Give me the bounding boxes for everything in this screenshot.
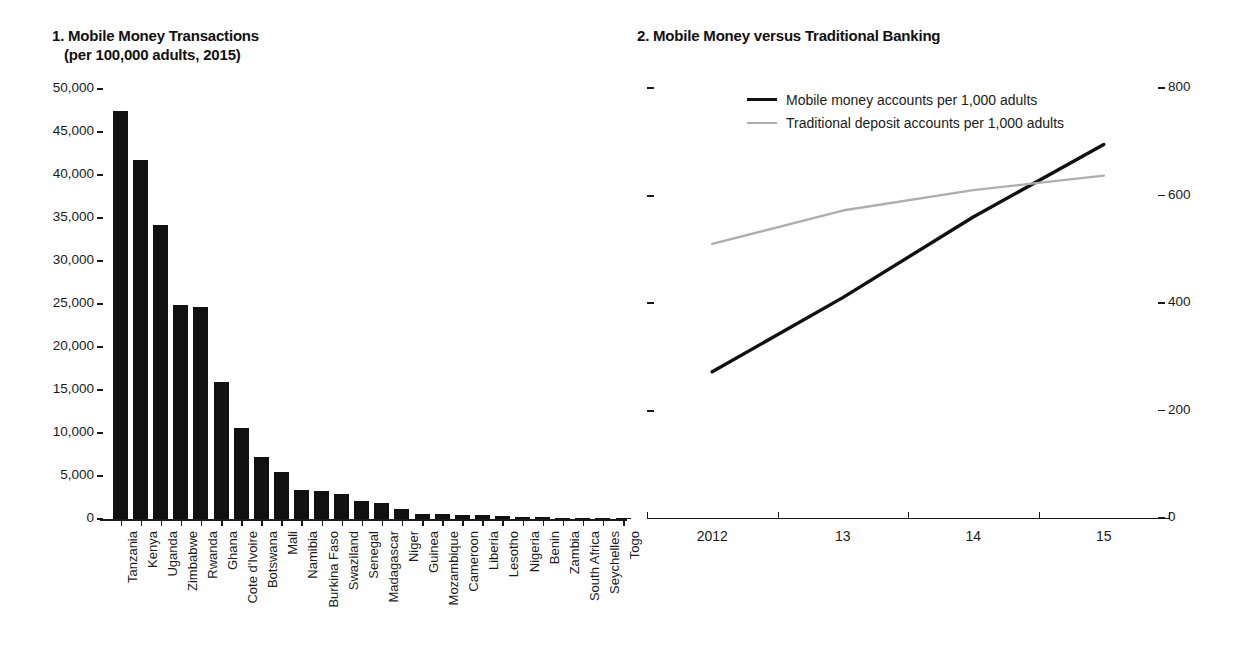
bar-chart-panel: 1. Mobile Money Transactions (per 100,00…: [0, 0, 640, 645]
line-chart-panel: 2. Mobile Money versus Traditional Banki…: [625, 0, 1250, 645]
bar-plot-area: [105, 89, 625, 519]
line-y-tick-label: 400: [1168, 294, 1191, 309]
line-x-tick-mark: [647, 512, 648, 519]
bar: [234, 428, 249, 519]
bar-category-label: Uganda: [166, 531, 179, 577]
bar-category-label: Guinea: [427, 531, 440, 573]
bar-category-label: South Africa: [588, 531, 601, 601]
bar: [214, 382, 229, 519]
bar-x-tick-mark: [543, 519, 545, 526]
bar: [193, 307, 208, 519]
bar: [294, 490, 309, 519]
bar-axis-baseline: [100, 519, 627, 521]
bar-category-label: Kenya: [146, 531, 159, 568]
bar-y-tick-mark: [97, 260, 103, 262]
bar-category-label: Seychelles: [608, 531, 621, 594]
bar-x-tick-mark: [502, 519, 504, 526]
bar-x-tick-mark: [563, 519, 565, 526]
line-x-tick-label: 13: [835, 528, 851, 544]
bar-category-label: Zambia: [568, 531, 581, 574]
bar-category-label: Burkina Faso: [327, 531, 340, 608]
bar-y-tick-label: 15,000: [53, 381, 94, 396]
bar-x-tick-mark: [301, 519, 303, 526]
line-y-tick-label: 600: [1168, 187, 1191, 202]
line-series-mobile-money: [712, 144, 1104, 371]
bar-y-tick-mark: [97, 174, 103, 176]
bar-category-label: Madagascar: [387, 531, 400, 603]
line-x-tick-mark: [1039, 512, 1040, 519]
bar-x-tick-mark: [161, 519, 163, 526]
bar: [113, 111, 128, 520]
bar-category-label: Rwanda: [206, 531, 219, 579]
bar: [173, 305, 188, 519]
bar-y-tick-mark: [97, 346, 103, 348]
bar-y-tick-label: 25,000: [53, 295, 94, 310]
bar-y-tick-mark: [97, 217, 103, 219]
line-x-tick-mark: [1169, 512, 1170, 519]
bar-category-label: Lesotho: [507, 531, 520, 577]
line-y-tick-mark-right: [1158, 410, 1165, 412]
bar-x-tick-mark: [121, 519, 123, 526]
bar-x-tick-mark: [603, 519, 605, 526]
bar-category-label: Botswana: [266, 531, 279, 588]
bar-y-tick-label: 45,000: [53, 123, 94, 138]
line-x-tick-label: 15: [1096, 528, 1112, 544]
line-x-tick-label: 2012: [697, 528, 728, 544]
bar-x-tick-mark: [141, 519, 143, 526]
bar-x-tick-mark: [261, 519, 263, 526]
bar: [314, 491, 329, 519]
bar-y-tick-mark: [97, 88, 103, 90]
line-plot-area: [625, 0, 1250, 645]
line-y-tick-mark-left: [647, 302, 654, 304]
bar-x-tick-mark: [382, 519, 384, 526]
bar-y-tick-label: 50,000: [53, 80, 94, 95]
bar-category-label: Cameroon: [467, 531, 480, 592]
bar-y-tick-label: 20,000: [53, 338, 94, 353]
bar-category-label: Liberia: [487, 531, 500, 570]
bar-category-label: Niger: [407, 531, 420, 562]
bar-x-tick-mark: [322, 519, 324, 526]
bar: [153, 225, 168, 519]
line-y-tick-mark-left: [647, 87, 654, 89]
bar: [334, 494, 349, 519]
bar-category-label: Swaziland: [347, 531, 360, 590]
line-x-tick-mark: [908, 512, 909, 519]
bar-category-label: Senegal: [367, 531, 380, 579]
bar: [133, 160, 148, 519]
bar-y-tick-label: 5,000: [60, 467, 94, 482]
bar-x-tick-mark: [583, 519, 585, 526]
bar-y-tick-label: 10,000: [53, 424, 94, 439]
bar-category-label: Nigeria: [528, 531, 541, 572]
bar-x-tick-mark: [422, 519, 424, 526]
bar: [374, 503, 389, 519]
line-y-tick-mark-left: [647, 195, 654, 197]
bar-x-tick-mark: [462, 519, 464, 526]
bar-x-tick-mark: [181, 519, 183, 526]
line-series-svg: [625, 0, 1250, 645]
bar-category-label: Benin: [548, 531, 561, 564]
line-y-tick-label: 800: [1168, 79, 1191, 94]
bar-y-tick-mark: [97, 475, 103, 477]
line-y-tick-mark-right: [1158, 87, 1165, 89]
bar-y-tick-mark: [97, 131, 103, 133]
bar: [394, 509, 409, 519]
line-series-traditional-deposit: [712, 176, 1104, 244]
bar-y-tick-mark: [97, 303, 103, 305]
bar-y-tick-mark: [97, 432, 103, 434]
bar-x-tick-mark: [241, 519, 243, 526]
bar-x-tick-mark: [482, 519, 484, 526]
bar-y-tick-label: 35,000: [53, 209, 94, 224]
bar-category-label: Mozambique: [447, 531, 460, 605]
bar-x-tick-mark: [523, 519, 525, 526]
bar-y-tick-label: 0: [86, 510, 94, 525]
bar-x-tick-mark: [402, 519, 404, 526]
line-y-tick-mark-right: [1158, 302, 1165, 304]
bar: [254, 457, 269, 519]
bar-category-label: Cote d'Ivoire: [246, 531, 259, 604]
line-y-tick-mark-right: [1158, 195, 1165, 197]
bar-category-label: Namibia: [306, 531, 319, 579]
bar-category-label: Zimbabwe: [186, 531, 199, 591]
bar-category-label: Mali: [286, 531, 299, 555]
bar: [354, 501, 369, 519]
bar-y-axis: 50,00045,00040,00035,00030,00025,00020,0…: [0, 0, 94, 645]
